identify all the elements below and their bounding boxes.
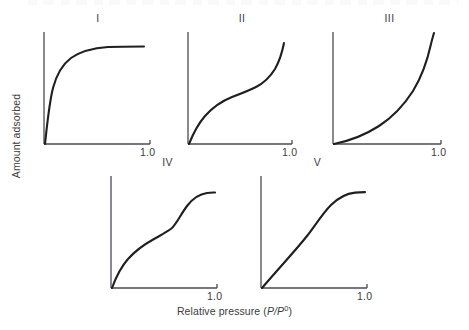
isotherm-curve-II — [189, 43, 284, 144]
x-tick-label-IV: 1.0 — [207, 290, 222, 302]
isotherm-figure: Amount adsorbed I 1.0 II 1.0 III — [0, 0, 469, 330]
x-axis-label: Relative pressure (P/P0) — [0, 305, 469, 317]
isotherm-curve-I — [45, 47, 144, 145]
x-axis-label-prefix: Relative pressure ( — [177, 305, 267, 317]
isotherm-curve-III — [334, 33, 434, 144]
panel-II: II 1.0 — [182, 12, 302, 152]
x-tick-label-V: 1.0 — [357, 290, 372, 302]
panel-title-III: III — [327, 12, 452, 24]
x-axis-label-numerator: P — [267, 305, 274, 317]
panel-title-I: I — [38, 12, 158, 24]
isotherm-curve-V — [262, 192, 365, 288]
panel-III: III 1.0 — [327, 12, 452, 152]
panel-IV: IV 1.0 — [105, 156, 230, 296]
panel-I: I 1.0 — [38, 12, 158, 152]
plot-III — [327, 26, 452, 152]
isotherm-curve-IV — [112, 193, 215, 289]
panel-title-IV: IV — [105, 156, 230, 168]
plot-II — [182, 26, 302, 152]
y-axis-label: Amount adsorbed — [10, 76, 22, 196]
panel-title-V: V — [255, 156, 380, 168]
x-axis-label-suffix: ) — [288, 305, 292, 317]
scan-artifact — [28, 0, 458, 5]
panel-title-II: II — [182, 12, 302, 24]
plot-I — [38, 26, 158, 152]
panel-V: V 1.0 — [255, 156, 380, 296]
x-tick-label-III: 1.0 — [431, 146, 446, 158]
plot-IV — [105, 170, 230, 296]
plot-V — [255, 170, 380, 296]
